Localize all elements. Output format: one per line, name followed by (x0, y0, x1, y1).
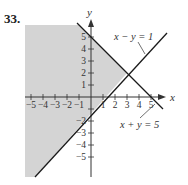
x-tick-label: 5 (149, 100, 154, 110)
x-tick-label: 4 (137, 100, 142, 110)
y-tick-label: −5 (76, 152, 86, 162)
x-tick-label: −4 (38, 100, 48, 110)
x-axis-label: x (169, 91, 175, 103)
x-tick-label: −3 (50, 100, 60, 110)
inequality-graph: −5 −4 −3 −2 −1 1 2 3 4 5 5 4 3 2 1 −2 −3… (0, 0, 188, 185)
y-tick-label: 4 (81, 44, 86, 54)
y-axis-arrow-icon (88, 19, 94, 27)
y-tick-label: 3 (81, 56, 86, 66)
y-tick-label: 2 (81, 68, 86, 78)
y-tick-label: −4 (76, 140, 86, 150)
x-tick-label: 2 (113, 100, 118, 110)
x-tick-label: 1 (101, 100, 106, 110)
line1-label: x − y = 1 (113, 31, 153, 42)
x-tick-label: −2 (62, 100, 72, 110)
y-tick-label: 5 (81, 32, 86, 42)
x-tick-label: −5 (26, 100, 36, 110)
y-tick-label: −2 (76, 116, 86, 126)
line2-label: x + y = 5 (119, 119, 159, 130)
leader-line1 (138, 42, 145, 54)
y-tick-label: −3 (76, 128, 86, 138)
x-axis-arrow-icon (158, 94, 166, 100)
x-tick-label: 3 (125, 100, 130, 110)
x-tick-label: −1 (74, 100, 84, 110)
y-tick-label: 1 (81, 80, 86, 90)
y-axis-label: y (86, 6, 92, 18)
